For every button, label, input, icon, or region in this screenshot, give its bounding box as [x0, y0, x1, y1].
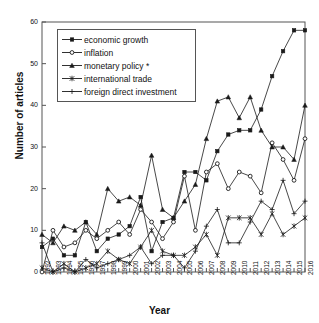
legend-label: economic growth: [83, 35, 148, 45]
x-tick-label: 1995: [78, 261, 85, 275]
x-tick-label: 2008: [220, 261, 227, 275]
legend-item: monetary policy *: [61, 59, 191, 72]
legend-marker-star-icon: [61, 72, 83, 85]
x-tick-label: 2004: [177, 261, 184, 275]
x-tick-label: 2014: [286, 261, 293, 275]
y-tick-label: 30: [30, 143, 38, 150]
legend-marker-filled-square-icon: [61, 33, 83, 46]
x-tick-label: 2016: [308, 261, 315, 275]
legend-item: international trade: [61, 72, 191, 85]
y-tick-label: 60: [30, 18, 38, 25]
chart-figure: Number of articles Year 0102030405060 19…: [0, 0, 319, 323]
x-tick-label: 1999: [122, 261, 129, 275]
x-tick-label: 1996: [89, 261, 96, 275]
x-tick-label: 1998: [111, 261, 118, 275]
x-tick-label: 2003: [166, 261, 173, 275]
x-tick-label: 1993: [56, 261, 63, 275]
x-tick-label: 2006: [198, 261, 205, 275]
y-axis-tick-labels: 0102030405060: [24, 0, 38, 323]
y-tick-label: 50: [30, 60, 38, 67]
legend-label: inflation: [83, 48, 113, 58]
legend-marker-filled-triangle-icon: [61, 59, 83, 72]
legend-marker-plus-icon: [61, 85, 83, 98]
x-tick-label: 2012: [264, 261, 271, 275]
x-tick-label: 2010: [242, 261, 249, 275]
x-tick-label: 2015: [297, 261, 304, 275]
legend-marker-open-circle-icon: [61, 46, 83, 59]
x-tick-label: 1992: [45, 261, 52, 275]
x-tick-label: 2011: [253, 261, 260, 275]
x-tick-label: 2002: [155, 261, 162, 275]
x-tick-label: 2009: [231, 261, 238, 275]
x-tick-label: 2007: [209, 261, 216, 275]
x-axis-label: Year: [0, 305, 319, 316]
legend-label: monetary policy *: [83, 61, 149, 71]
x-tick-label: 2001: [144, 261, 151, 275]
y-tick-label: 20: [30, 185, 38, 192]
y-axis-label: Number of articles: [14, 41, 25, 191]
legend-item: economic growth: [61, 33, 191, 46]
legend-label: international trade: [83, 74, 152, 84]
y-tick-label: 0: [34, 268, 38, 275]
legend-item: inflation: [61, 46, 191, 59]
legend-label: foreign direct investment: [83, 87, 177, 97]
x-tick-label: 2005: [187, 261, 194, 275]
y-tick-label: 10: [30, 226, 38, 233]
y-tick-label: 40: [30, 101, 38, 108]
x-tick-label: 2000: [133, 261, 140, 275]
chart-legend: economic growthinflationmonetary policy …: [57, 29, 196, 102]
legend-item: foreign direct investment: [61, 85, 191, 98]
x-tick-label: 1994: [67, 261, 74, 275]
x-tick-label: 2013: [275, 261, 282, 275]
x-tick-label: 1997: [100, 261, 107, 275]
